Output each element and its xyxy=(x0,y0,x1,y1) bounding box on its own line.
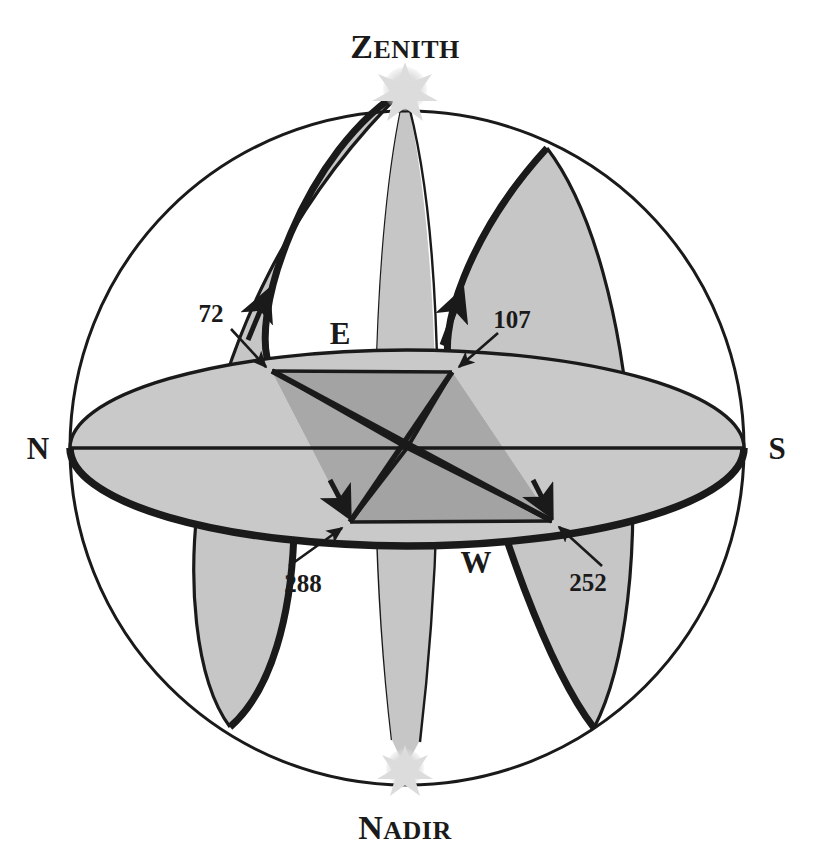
zenith-label: ZENITH xyxy=(350,30,460,64)
diagram-canvas: ZENITH NADIR N S E W 72 107 288 252 xyxy=(0,0,818,867)
chord-288-252 xyxy=(350,521,552,522)
celestial-sphere-svg xyxy=(0,0,818,867)
chord-72-107 xyxy=(272,371,452,372)
azimuth-label-72: 72 xyxy=(199,301,224,326)
south-label: S xyxy=(768,433,785,464)
azimuth-label-252: 252 xyxy=(569,570,607,595)
azimuth-label-107: 107 xyxy=(493,307,531,332)
north-label: N xyxy=(27,433,49,464)
east-label: E xyxy=(330,318,351,349)
nadir-star-marker xyxy=(377,745,433,796)
zenith-label-rest: ENITH xyxy=(373,35,459,64)
nadir-label-cap: N xyxy=(358,809,383,846)
azimuth-label-288: 288 xyxy=(284,571,322,596)
zenith-label-cap: Z xyxy=(350,28,373,65)
nadir-label-rest: ADIR xyxy=(383,816,451,845)
nadir-label: NADIR xyxy=(358,811,452,845)
west-label: W xyxy=(461,547,492,578)
